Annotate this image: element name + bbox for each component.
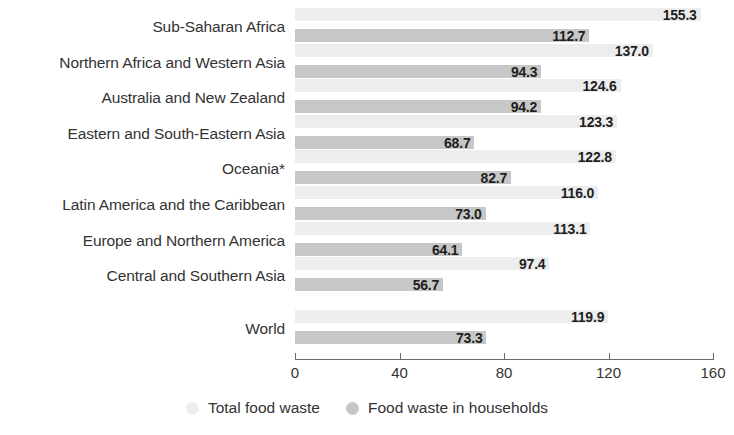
category-label: Europe and Northern America [0,232,285,250]
x-axis-tick-label: 160 [700,364,725,381]
legend-swatch-circle-icon [346,402,359,415]
bar-value-household: 73.0 [295,206,482,222]
x-axis-tick-label: 40 [391,364,408,381]
bar-value-household: 82.7 [295,170,507,186]
bar-value-total: 124.6 [295,78,617,94]
bar-value-household: 73.3 [295,330,482,346]
bar-value-total: 119.9 [295,309,604,325]
bar-value-total: 155.3 [295,7,697,23]
legend-label: Food waste in households [368,399,548,417]
bar-value-household: 64.1 [295,242,458,258]
x-axis-tick-label: 0 [291,364,299,381]
category-label: Australia and New Zealand [0,89,285,107]
category-label: Northern Africa and Western Asia [0,54,285,72]
bar-value-household: 68.7 [295,135,470,151]
bar-value-household: 94.3 [295,64,537,80]
legend-swatch-circle-icon [186,402,199,415]
bar-value-total: 123.3 [295,114,613,130]
bar-value-total: 122.8 [295,149,612,165]
x-axis-tick [713,353,714,360]
category-label: Central and Southern Asia [0,267,285,285]
category-label: Eastern and South-Eastern Asia [0,125,285,143]
x-axis-tick [609,353,610,360]
bar-value-total: 137.0 [295,43,649,59]
legend-label: Total food waste [208,399,320,417]
bar-value-household: 112.7 [295,28,585,44]
x-axis-tick [504,353,505,360]
bar-value-total: 113.1 [295,221,586,237]
x-axis-tick [295,353,296,360]
x-axis-tick-label: 120 [596,364,621,381]
category-label: Oceania* [0,160,285,178]
category-label: World [0,320,285,338]
category-label: Sub-Saharan Africa [0,18,285,36]
category-label: Latin America and the Caribbean [0,196,285,214]
legend-item[interactable]: Food waste in households [346,399,548,417]
x-axis-tick-label: 80 [496,364,513,381]
bar-value-household: 94.2 [295,99,537,115]
bar-value-household: 56.7 [295,277,439,293]
bar-value-total: 116.0 [295,185,594,201]
x-axis-tick [400,353,401,360]
legend-item[interactable]: Total food waste [186,399,320,417]
bar-value-total: 97.4 [295,256,545,272]
plot-area: 155.3112.7137.094.3124.694.2123.368.7122… [295,0,713,360]
chart-legend: Total food wasteFood waste in households [0,399,734,417]
food-waste-bar-chart: Sub-Saharan AfricaNorthern Africa and We… [0,0,734,435]
